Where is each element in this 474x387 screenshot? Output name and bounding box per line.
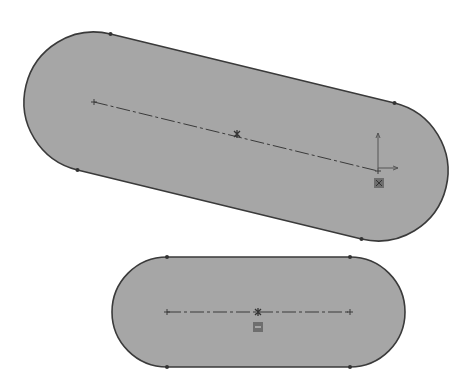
tangent-point-icon[interactable] xyxy=(165,365,169,369)
horizontal-slot[interactable] xyxy=(112,255,405,369)
tangent-point-icon[interactable] xyxy=(348,255,352,259)
sketch-svg xyxy=(0,0,474,387)
sketch-canvas[interactable] xyxy=(0,0,474,387)
tangent-point-icon[interactable] xyxy=(359,237,363,241)
inclined-slot[interactable] xyxy=(24,32,448,241)
tangent-point-icon[interactable] xyxy=(165,255,169,259)
tangent-point-icon[interactable] xyxy=(348,365,352,369)
tangent-point-icon[interactable] xyxy=(109,32,113,36)
tangent-point-icon[interactable] xyxy=(393,101,397,105)
tangent-point-icon[interactable] xyxy=(75,168,79,172)
